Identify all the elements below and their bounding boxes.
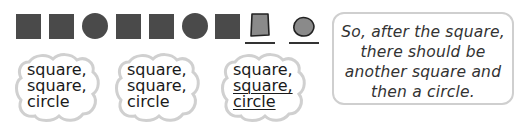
answer-circle-icon <box>292 16 316 38</box>
thought-cloud-1: square, square, circle <box>13 52 101 122</box>
pattern-shape-square-4 <box>149 14 174 39</box>
pattern-shape-square-2 <box>49 14 74 39</box>
pattern-shape-circle-2 <box>182 13 208 39</box>
answer-blank-2[interactable] <box>289 42 319 44</box>
pattern-shape-square-1 <box>16 14 41 39</box>
thought-cloud-3: square, square, circle <box>219 52 307 122</box>
cloud-line: circle <box>27 94 87 110</box>
explanation-line: another square and <box>334 62 512 82</box>
pattern-shape-square-3 <box>116 14 141 39</box>
cloud-line-underlined: circle <box>233 94 293 110</box>
pattern-shape-circle-1 <box>82 13 108 39</box>
thought-cloud-2: square, square, circle <box>113 52 201 122</box>
explanation-line: there should be <box>334 42 512 62</box>
explanation-line: then a circle. <box>334 82 512 102</box>
answer-blank-1[interactable] <box>245 42 275 44</box>
cloud-line: circle <box>127 94 187 110</box>
explanation-box: So, after the square, there should be an… <box>332 12 514 105</box>
pattern-shape-square-5 <box>215 14 240 39</box>
answer-square-icon <box>249 12 271 38</box>
explanation-line: So, after the square, <box>334 22 512 42</box>
